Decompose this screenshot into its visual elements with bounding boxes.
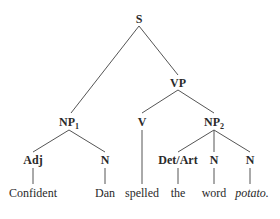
leaf-dan: Dan	[95, 186, 115, 200]
node-np2-sub: 2	[220, 122, 224, 131]
syntax-tree: S VP NP1 V NP2 Adj N Det/Art N N Confide…	[0, 0, 280, 219]
edge-vp-np2	[178, 90, 214, 113]
node-vp: VP	[170, 76, 186, 90]
edge-np1-n	[69, 130, 105, 152]
node-np1-label: NP	[59, 115, 75, 129]
leaf-potato: potato.	[234, 186, 269, 200]
node-adj: Adj	[23, 153, 42, 167]
leaf-spelled: spelled	[125, 186, 159, 200]
tree-leaves: Confident Dan spelled the word potato.	[9, 186, 269, 200]
edge-np1-adj	[33, 130, 69, 152]
node-n-dan: N	[101, 153, 110, 167]
node-s: S	[136, 12, 143, 26]
node-np1: NP1	[59, 115, 79, 131]
edge-np2-n2	[214, 130, 250, 152]
node-np1-sub: 1	[75, 122, 79, 131]
edge-s-vp	[139, 26, 178, 75]
node-n-potato: N	[246, 153, 255, 167]
node-v: V	[138, 115, 147, 129]
node-n-word: N	[210, 153, 219, 167]
leaf-confident: Confident	[9, 186, 58, 200]
tree-nodes: S VP NP1 V NP2 Adj N Det/Art N N	[23, 12, 254, 167]
node-np2-label: NP	[204, 115, 220, 129]
edge-vp-v	[142, 90, 178, 113]
edge-np2-det	[178, 130, 214, 152]
node-det-art: Det/Art	[158, 153, 197, 167]
edge-s-np1	[71, 26, 139, 113]
leaf-word: word	[202, 186, 227, 200]
leaf-the: the	[171, 186, 186, 200]
node-np2: NP2	[204, 115, 224, 131]
